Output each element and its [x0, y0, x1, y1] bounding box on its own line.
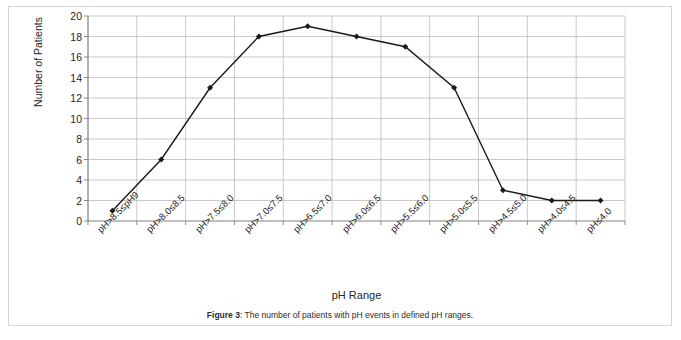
y-axis-tick-label: 10 [70, 113, 82, 124]
y-axis-tick-label: 4 [76, 175, 82, 186]
y-axis-tick-label: 12 [70, 93, 82, 104]
figure-container: Number of Patients 02468101214161820 pH>… [0, 0, 681, 340]
figure-caption: Figure 3: The number of patients with pH… [14, 310, 666, 321]
chart-canvas: Number of Patients 02468101214161820 pH>… [0, 0, 681, 340]
y-axis-tick-label: 20 [70, 11, 82, 22]
y-axis-tick-label: 8 [76, 134, 82, 145]
data-point-marker [305, 23, 311, 29]
data-point-marker [500, 187, 506, 193]
y-axis-title: Number of Patients [32, 0, 44, 127]
horizontal-gridlines [88, 16, 625, 221]
figure-caption-text: The number of patients with pH events in… [244, 310, 473, 320]
y-axis-tick-label: 18 [70, 31, 82, 42]
x-axis-title: pH Range [88, 289, 625, 301]
data-point-marker [354, 34, 360, 40]
figure-caption-label: Figure 3 [207, 310, 240, 320]
axis-lines [84, 16, 625, 225]
y-axis-tick-label: 14 [70, 72, 82, 83]
data-point-marker [549, 198, 555, 204]
y-axis-tick-label: 6 [76, 154, 82, 165]
y-axis-tick-label: 2 [76, 195, 82, 206]
y-axis-tick-label: 16 [70, 52, 82, 63]
y-axis-tick-label: 0 [76, 216, 82, 227]
data-point-marker [598, 198, 604, 204]
plot-area [88, 16, 625, 221]
x-axis-tick-labels: pH>8.5≤pH9pH>8.0≤8.5pH>7.5≤8.0pH>7.0≤7.5… [88, 223, 625, 285]
plot-svg [88, 16, 625, 221]
y-axis-tick-labels: 02468101214161820 [48, 16, 82, 221]
